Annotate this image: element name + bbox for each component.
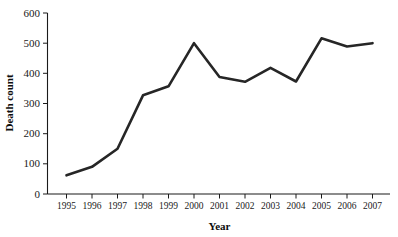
data-series-line: [67, 38, 373, 175]
x-axis-title: Year: [209, 220, 231, 232]
y-axis-tick-labels: 0 100 200 300 400 500 600: [24, 7, 41, 200]
x-tick-label: 2006: [338, 201, 357, 211]
x-tick-label: 2005: [312, 201, 331, 211]
x-axis-ticks: [67, 194, 373, 199]
x-tick-label: 2004: [287, 201, 306, 211]
y-tick-label: 0: [35, 188, 41, 200]
y-tick-label: 200: [24, 127, 41, 139]
chart-canvas: 0 100 200 300 400 500 600 1995: [0, 0, 398, 237]
y-tick-label: 300: [24, 97, 41, 109]
line-chart-figure: 0 100 200 300 400 500 600 1995: [0, 0, 398, 237]
y-tick-label: 500: [24, 37, 41, 49]
x-tick-label: 2002: [236, 201, 255, 211]
x-tick-label: 1999: [159, 201, 178, 211]
y-axis-title: Death count: [3, 74, 15, 131]
x-tick-label: 1998: [134, 201, 153, 211]
y-tick-label: 400: [24, 67, 41, 79]
y-axis-ticks: [43, 13, 48, 194]
x-tick-label: 2003: [261, 201, 280, 211]
y-tick-label: 100: [24, 157, 41, 169]
x-tick-label: 2000: [185, 201, 204, 211]
x-tick-label: 1996: [83, 201, 102, 211]
x-axis-tick-labels: 1995 1996 1997 1998 1999 2000 2001 2002 …: [57, 201, 382, 211]
x-tick-label: 1995: [57, 201, 76, 211]
x-tick-label: 1997: [108, 201, 127, 211]
x-tick-label: 2007: [363, 201, 382, 211]
clipped-caption-remnant: [14, 0, 234, 2]
y-tick-label: 600: [24, 7, 41, 19]
x-tick-label: 2001: [210, 201, 229, 211]
